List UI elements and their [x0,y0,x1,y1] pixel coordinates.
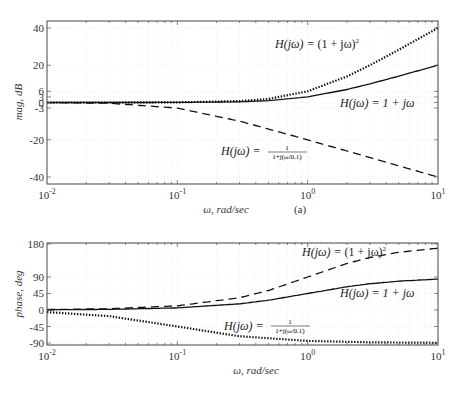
annotation-lowpass-mag: H(jω) = 1 1+j(ω/0.1) [220,144,307,161]
x-tick-label: 10-1 [168,187,186,201]
magnitude-ticks: 4020630-3-20-4010-210-1100101 [29,21,445,201]
y-tick-label: -3 [35,102,45,114]
y-tick-label: 20 [33,59,45,71]
phase-y-label: phase, deg [12,270,24,319]
phase-plot: 18090450-45-9010-210-1100101 phase, deg … [12,238,446,376]
y-tick-label: 180 [28,238,45,250]
anno-prefix: H(jω) = [220,144,261,158]
x-tick-label: 10-2 [38,187,56,201]
x-tick-label: 101 [431,348,446,362]
magnitude-y-label: mag, dB [12,83,24,120]
x-tick-label: 100 [300,187,315,201]
annotation-squared-mag: H(jω) = (1 + jω)2 [274,37,360,51]
x-tick-label: 101 [431,187,446,201]
anno-frac-den: 1+j(ω/0.1) [272,153,302,161]
anno-frac-den: 1+j(ω/0.1) [275,327,305,335]
y-tick-label: 90 [33,271,45,283]
magnitude-plot: 4020630-3-20-4010-210-1100101 mag, dB ω,… [12,21,446,216]
anno-power: 2 [356,37,360,45]
anno-frac-num: 1 [288,318,292,326]
y-tick-label: -90 [29,337,44,349]
y-tick-label: -40 [29,171,44,183]
y-tick-label: 45 [33,287,45,299]
anno-prefix: H(jω) = [274,37,318,51]
anno-expr: 1 + jω [383,286,415,300]
y-tick-label: -20 [29,134,44,146]
annotation-squared-phase: H(jω) = (1 + jω)2 [301,245,387,259]
annotation-linear-phase: H(jω) = 1 + jω [339,286,414,300]
anno-prefix: H(jω) = [339,286,383,300]
bode-figure: 4020630-3-20-4010-210-1100101 mag, dB ω,… [0,0,461,394]
anno-prefix: H(jω) = [223,319,264,333]
phase-x-label: ω, rad/sec [233,364,279,376]
figure-caption: (a) [294,203,307,216]
anno-prefix: H(jω) = [339,96,383,110]
x-tick-label: 100 [300,348,315,362]
x-tick-label: 10-2 [38,348,56,362]
anno-prefix: H(jω) = [301,245,345,259]
x-tick-label: 10-1 [168,348,186,362]
anno-expr: (1 + jω) [318,37,356,51]
y-tick-label: -45 [29,321,44,333]
anno-power: 2 [383,245,387,253]
anno-expr: (1 + jω) [345,245,383,259]
annotation-linear-mag: H(jω) = 1 + jω [339,96,414,110]
anno-expr: 1 + jω [383,96,415,110]
magnitude-x-label: ω, rad/sec [203,203,249,215]
y-tick-label: 40 [33,22,45,34]
y-tick-label: 0 [39,304,45,316]
anno-frac-num: 1 [285,144,289,152]
